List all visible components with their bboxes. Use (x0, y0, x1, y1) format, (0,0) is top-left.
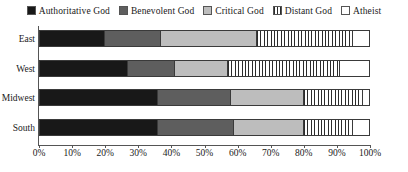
x-axis-tick-label-30: 30% (130, 148, 147, 159)
bar-row-south (39, 119, 370, 136)
bar-segment-south-benevolent-god[interactable] (158, 119, 234, 136)
bar-segment-west-atheist[interactable] (340, 60, 370, 77)
bar-segment-south-critical-god[interactable] (234, 119, 304, 136)
bar-segment-west-authoritative-god[interactable] (39, 60, 128, 77)
x-axis-tick-label-100: 100% (359, 148, 381, 159)
bar-segment-south-authoritative-god[interactable] (39, 119, 158, 136)
x-axis-tick-label-90: 90% (328, 148, 345, 159)
bar-segment-east-authoritative-god[interactable] (39, 30, 105, 47)
x-axis-tick-label-0: 0% (33, 148, 46, 159)
bar-row-midwest (39, 89, 370, 106)
legend-label-benevolent-god: Benevolent God (131, 6, 194, 16)
x-axis-tick-label-80: 80% (295, 148, 312, 159)
bar-row-east (39, 30, 370, 47)
legend-item-authoritative-god[interactable]: Authoritative God (27, 6, 110, 16)
plot-area (39, 26, 370, 145)
bar-segment-south-atheist[interactable] (353, 119, 370, 136)
y-axis-label-west: West (16, 64, 35, 74)
y-axis-label-south: South (13, 123, 35, 133)
bar-segment-midwest-distant-god[interactable] (304, 89, 364, 106)
x-axis-tick-label-20: 20% (96, 148, 113, 159)
bar-segment-west-benevolent-god[interactable] (128, 60, 174, 77)
legend-label-atheist: Atheist (353, 6, 381, 16)
x-axis-tick-label-70: 70% (262, 148, 279, 159)
legend-label-distant-god: Distant God (285, 6, 332, 16)
bar-segment-west-distant-god[interactable] (228, 60, 341, 77)
bar-segment-east-distant-god[interactable] (257, 30, 353, 47)
legend-item-critical-god[interactable]: Critical God (203, 6, 263, 16)
legend-swatch-critical-god-icon (203, 6, 212, 15)
x-axis-tick-label-10: 10% (63, 148, 80, 159)
bar-segment-south-distant-god[interactable] (304, 119, 354, 136)
bar-segment-west-critical-god[interactable] (175, 60, 228, 77)
legend-item-benevolent-god[interactable]: Benevolent God (119, 6, 194, 16)
y-axis-labels: EastWestMidwestSouth (0, 26, 35, 145)
legend-item-distant-god[interactable]: Distant God (273, 6, 332, 16)
bar-segment-midwest-critical-god[interactable] (231, 89, 304, 106)
bar-segment-midwest-benevolent-god[interactable] (158, 89, 231, 106)
y-axis-label-east: East (19, 34, 35, 44)
legend-swatch-benevolent-god-icon (119, 6, 128, 15)
legend-swatch-atheist-icon (341, 6, 350, 15)
chart-legend: Authoritative God Benevolent God Critica… (0, 3, 408, 18)
legend-item-atheist[interactable]: Atheist (341, 6, 381, 16)
x-axis-tick-labels: 0%10%20%30%40%50%60%70%80%90%100% (0, 148, 408, 160)
bar-segment-midwest-atheist[interactable] (363, 89, 370, 106)
bar-segment-midwest-authoritative-god[interactable] (39, 89, 158, 106)
x-axis-tick-label-60: 60% (229, 148, 246, 159)
legend-label-critical-god: Critical God (215, 6, 263, 16)
bar-segment-east-benevolent-god[interactable] (105, 30, 161, 47)
bar-segment-east-critical-god[interactable] (161, 30, 257, 47)
x-axis-tick-label-40: 40% (163, 148, 180, 159)
legend-swatch-authoritative-god-icon (27, 6, 36, 15)
bar-row-west (39, 60, 370, 77)
legend-swatch-distant-god-icon (273, 6, 282, 15)
x-axis-tick-label-50: 50% (196, 148, 213, 159)
legend-label-authoritative-god: Authoritative God (39, 6, 110, 16)
stacked-bar-chart-figure: Authoritative God Benevolent God Critica… (0, 0, 408, 172)
bar-segment-east-atheist[interactable] (353, 30, 370, 47)
y-axis-label-midwest: Midwest (2, 93, 35, 103)
